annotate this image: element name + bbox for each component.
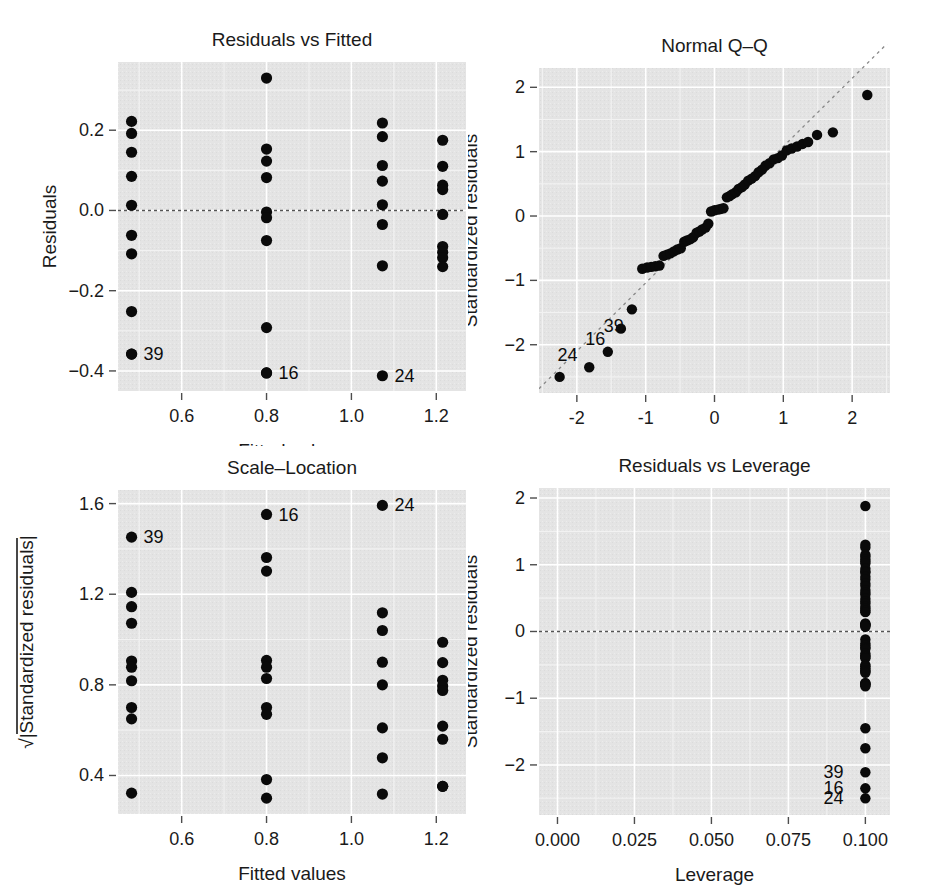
- y-tick-label: 0: [515, 621, 525, 641]
- y-tick-label: −1: [504, 270, 525, 290]
- data-point: [377, 752, 388, 763]
- outlier-label-39: 39: [144, 527, 164, 547]
- outlier-label-24: 24: [394, 495, 414, 515]
- y-axis-title: Standardized residuals: [468, 134, 481, 327]
- x-tick-label: 1.2: [424, 406, 449, 426]
- data-point: [377, 607, 388, 618]
- data-point: [126, 587, 137, 598]
- data-point: [126, 147, 137, 158]
- plot-panel-residuals-vs-fitted: 3916240.60.81.01.20.20.0−0.2−0.4Residual…: [0, 0, 468, 446]
- data-point: [261, 793, 272, 804]
- data-point: [377, 657, 388, 668]
- x-tick-label: 1.2: [424, 829, 449, 849]
- y-tick-label: 0: [515, 206, 525, 226]
- outlier-label-16: 16: [279, 505, 299, 525]
- y-axis-title: Standardized residuals: [468, 555, 481, 748]
- x-tick-label: 0.000: [535, 830, 580, 850]
- data-point: [261, 709, 272, 720]
- data-point: [437, 184, 448, 195]
- data-point: [261, 566, 272, 577]
- data-point: [437, 781, 448, 792]
- x-tick-label: 1.0: [339, 829, 364, 849]
- data-point: [437, 720, 448, 731]
- outlier-label-39: 39: [144, 344, 164, 364]
- y-tick-label: 1: [515, 555, 525, 575]
- data-point: [860, 743, 870, 753]
- x-tick-label: 0: [709, 408, 719, 428]
- data-point: [261, 673, 272, 684]
- data-point: [860, 767, 870, 777]
- data-point: [126, 116, 137, 127]
- data-point: [261, 143, 272, 154]
- data-point: [703, 219, 713, 229]
- x-axis: 0.0000.0250.0500.0750.100: [535, 817, 888, 850]
- data-point: [126, 171, 137, 182]
- data-point: [261, 156, 272, 167]
- x-tick-label: 0.8: [254, 829, 279, 849]
- data-point: [654, 260, 664, 270]
- y-tick-label: 1.6: [79, 494, 104, 514]
- outlier-label-24: 24: [394, 366, 414, 386]
- y-tick-label: −2: [504, 335, 525, 355]
- data-point: [437, 657, 448, 668]
- x-tick-label: 0.025: [612, 830, 657, 850]
- x-tick-label: 0.8: [254, 406, 279, 426]
- data-point: [377, 176, 388, 187]
- data-point: [377, 199, 388, 210]
- outlier-label-24: 24: [558, 345, 578, 365]
- y-axis-title: √|Standardized residuals|: [16, 535, 37, 749]
- data-point: [377, 788, 388, 799]
- data-point: [126, 230, 137, 241]
- data-point: [377, 131, 388, 142]
- outlier-label-16: 16: [585, 329, 605, 349]
- data-point: [437, 135, 448, 146]
- y-axis: 210−1−2: [504, 488, 537, 775]
- data-point: [261, 509, 272, 520]
- panel-title: Scale–Location: [227, 457, 357, 478]
- data-point: [377, 160, 388, 171]
- data-point: [860, 793, 870, 803]
- data-point: [860, 668, 870, 678]
- panel-title: Normal Q–Q: [661, 35, 768, 56]
- x-tick-label: 0.100: [843, 830, 888, 850]
- data-point: [828, 127, 838, 137]
- data-point: [437, 637, 448, 648]
- outlier-label-24: 24: [823, 788, 843, 808]
- y-tick-label: 0.4: [79, 765, 104, 785]
- data-point: [261, 322, 272, 333]
- data-point: [261, 235, 272, 246]
- data-point: [437, 685, 448, 696]
- panel-title: Residuals vs Leverage: [618, 455, 810, 476]
- y-tick-label: −0.4: [68, 361, 104, 381]
- data-point: [126, 128, 137, 139]
- data-point: [126, 532, 137, 543]
- data-point: [126, 601, 137, 612]
- data-point: [437, 161, 448, 172]
- y-tick-label: 0.8: [79, 675, 104, 695]
- data-point: [860, 783, 870, 793]
- data-point: [377, 117, 388, 128]
- plot-panel-normal-qq: 241639-2-1012210−1−2Normal Q–QTheoretica…: [468, 0, 935, 446]
- data-point: [126, 662, 137, 673]
- y-axis: 210−1−2: [504, 77, 537, 354]
- y-tick-label: 2: [515, 488, 525, 508]
- y-tick-label: 1.2: [79, 584, 104, 604]
- data-point: [377, 722, 388, 733]
- data-point: [718, 203, 728, 213]
- data-point: [437, 209, 448, 220]
- y-tick-label: −1: [504, 688, 525, 708]
- data-point: [126, 675, 137, 686]
- x-tick-label: 0.050: [689, 830, 734, 850]
- data-point: [261, 212, 272, 223]
- data-point: [860, 622, 870, 632]
- x-tick-label: 0.075: [766, 830, 811, 850]
- data-point: [860, 501, 870, 511]
- x-tick-label: 0.6: [169, 829, 194, 849]
- data-point: [126, 348, 137, 359]
- data-point: [862, 90, 872, 100]
- data-point: [261, 72, 272, 83]
- plot-panel-residuals-vs-leverage: 3916240.0000.0250.0500.0750.100210−1−2Re…: [468, 446, 935, 891]
- y-tick-label: −0.2: [68, 281, 104, 301]
- data-point: [126, 200, 137, 211]
- y-tick-label: −2: [504, 755, 525, 775]
